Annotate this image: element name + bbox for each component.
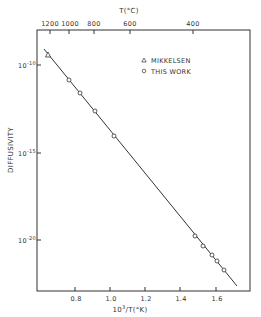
x-tick-label-0.8: 0.8 xyxy=(70,295,81,303)
data-point xyxy=(78,91,82,95)
data-point xyxy=(67,78,71,82)
y-tick-label-1e-10: 10-10 xyxy=(18,60,36,70)
legend-label-mikkelsen: MIKKELSEN xyxy=(151,57,191,65)
y-exp-20: -20 xyxy=(27,235,36,241)
fit-line xyxy=(44,49,237,286)
top-axis: 1200 1000 800 600 400 xyxy=(41,20,200,34)
legend: MIKKELSEN THIS WORK xyxy=(142,57,192,76)
legend-circle-icon xyxy=(142,69,146,73)
legend-triangle-icon xyxy=(142,58,146,62)
x-tick-label-1.2: 1.2 xyxy=(140,295,151,303)
diffusivity-chart: T(°C) 1200 1000 800 600 400 0.8 1.0 1.2 … xyxy=(0,0,261,317)
data-point xyxy=(222,268,226,272)
y-tick-label-1e-15: 10-15 xyxy=(18,148,36,158)
top-tick-label-400: 400 xyxy=(186,20,199,28)
data-point xyxy=(201,244,205,248)
top-axis-title: T(°C) xyxy=(118,7,139,15)
y-base-10: 10 xyxy=(18,62,27,70)
x-axis: 0.8 1.0 1.2 1.4 1.6 xyxy=(70,287,222,303)
y-axis-title: DIFFUSIVITY xyxy=(7,127,15,173)
x-axis-title-base: 10 xyxy=(113,306,123,314)
data-point xyxy=(215,259,219,263)
top-tick-label-800: 800 xyxy=(87,20,100,28)
y-axis: 10-10 10-15 10-20 xyxy=(18,60,41,245)
data-point xyxy=(112,134,116,138)
data-point xyxy=(210,253,214,257)
y-base-20: 10 xyxy=(18,237,27,245)
mikkelsen-point xyxy=(46,52,51,57)
top-tick-label-1200: 1200 xyxy=(41,20,59,28)
y-exp-15: -15 xyxy=(27,148,36,154)
top-tick-label-600: 600 xyxy=(123,20,136,28)
data-point xyxy=(193,234,197,238)
top-tick-label-1000: 1000 xyxy=(61,20,79,28)
y-tick-label-1e-20: 10-20 xyxy=(18,235,36,245)
x-tick-label-1.0: 1.0 xyxy=(105,295,116,303)
x-axis-title: 103/T(°K) xyxy=(113,304,148,314)
y-base-15: 10 xyxy=(18,150,27,158)
data-point xyxy=(93,109,97,113)
x-tick-label-1.6: 1.6 xyxy=(211,295,222,303)
x-tick-label-1.4: 1.4 xyxy=(175,295,186,303)
x-axis-title-rest: /T(°K) xyxy=(126,306,148,314)
y-exp-10: -10 xyxy=(27,60,36,66)
legend-label-this-work: THIS WORK xyxy=(150,68,191,76)
